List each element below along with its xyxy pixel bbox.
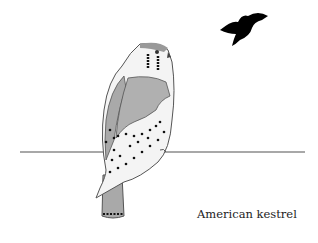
kestrel-eye: [155, 50, 159, 54]
illustration-canvas: American kestrel: [0, 0, 318, 243]
caption-text: American kestrel: [197, 207, 297, 221]
bird-silhouette-icon: [220, 13, 268, 46]
